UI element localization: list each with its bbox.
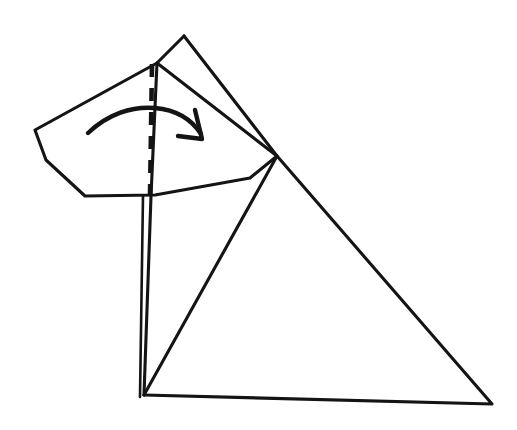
hand-drawn-figure	[0, 0, 517, 430]
left-upright-line	[140, 196, 143, 397]
drawing-canvas	[0, 0, 517, 430]
large-triangle	[144, 36, 492, 404]
fold-arc-arrow	[88, 108, 201, 134]
